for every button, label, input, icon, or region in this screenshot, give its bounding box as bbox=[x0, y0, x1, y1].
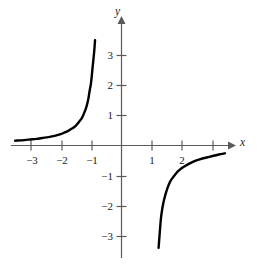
y-tick-label-1: 1 bbox=[101, 110, 113, 121]
coordinate-plane bbox=[0, 0, 258, 264]
graph-figure: 3 2 1 −1 −2 −3 −3 −2 −1 1 2 y x bbox=[0, 0, 258, 264]
x-tick-label-1: 1 bbox=[146, 155, 158, 166]
y-tick-label-minus1: −1 bbox=[95, 171, 113, 182]
y-tick-label-3: 3 bbox=[101, 50, 113, 61]
y-axis-group bbox=[117, 16, 127, 258]
x-tick-label-minus2: −2 bbox=[52, 155, 72, 166]
x-axis-group bbox=[11, 141, 236, 151]
y-tick-label-minus3: −3 bbox=[95, 231, 113, 242]
x-tick-label-2: 2 bbox=[176, 155, 188, 166]
x-axis-label: x bbox=[240, 137, 245, 149]
y-axis-label: y bbox=[115, 6, 120, 18]
y-tick-label-2: 2 bbox=[101, 80, 113, 91]
curve-left-branch bbox=[15, 40, 95, 141]
x-axis-arrow bbox=[228, 142, 236, 150]
y-tick-label-minus2: −2 bbox=[95, 201, 113, 212]
x-tick-label-minus1: −1 bbox=[82, 155, 102, 166]
curve-right-branch bbox=[159, 153, 225, 248]
curve-group bbox=[15, 40, 225, 248]
x-tick-label-minus3: −3 bbox=[22, 155, 42, 166]
